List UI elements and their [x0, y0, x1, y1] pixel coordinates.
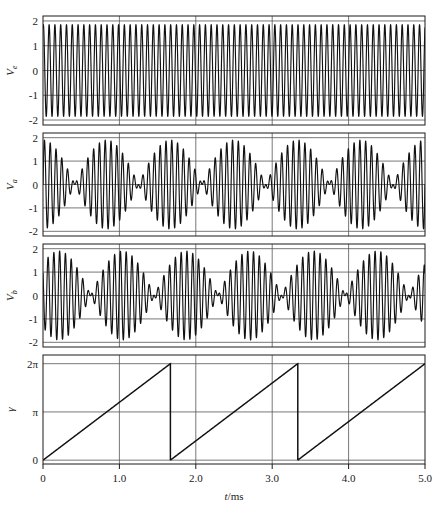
x-axis-title: t/ms: [225, 490, 244, 502]
panel-ve-ytick-label: 1: [33, 40, 39, 52]
panel-vb-ylabel: Vb: [4, 290, 19, 301]
panel-va-ytick-label: 2: [33, 132, 39, 144]
panel-gamma-ytick-label: π: [32, 406, 38, 418]
panel-ve-ytick-label: 0: [33, 65, 39, 77]
panel-va-ytick-labels: 210-1-2: [29, 132, 39, 238]
panel-va-ytick-label: 1: [33, 155, 39, 167]
x-axis: 01.02.03.04.05.0t/ms: [40, 464, 432, 502]
panel-ve: 210-1-2Ve: [4, 15, 425, 126]
waveform-plot-canvas: 210-1-2Ve210-1-2Va210-1-2Vb2ππ0γ01.02.03…: [0, 0, 442, 513]
panel-ve-ylabel: Ve: [4, 65, 19, 76]
x-tick-label: 4.0: [342, 472, 356, 484]
panel-vb-ytick-labels: 210-1-2: [29, 243, 39, 349]
figure-four-panel-waveforms: 210-1-2Ve210-1-2Va210-1-2Vb2ππ0γ01.02.03…: [0, 0, 442, 513]
panel-gamma-ytick-labels: 2ππ0: [27, 358, 39, 466]
panel-va: 210-1-2Va: [4, 132, 425, 238]
panel-ve-ytick-label: -2: [29, 114, 38, 126]
panel-vb-ytick-label: 0: [33, 290, 39, 302]
panel-gamma-ytick-label: 2π: [27, 358, 39, 370]
x-tick-label: 5.0: [418, 472, 432, 484]
x-tick-label: 0: [40, 472, 46, 484]
panel-gamma-ylabel: γ: [4, 407, 16, 412]
panel-vb-ytick-label: -2: [29, 336, 38, 348]
x-tick-label: 1.0: [113, 472, 127, 484]
panel-ve-ytick-label: -1: [29, 89, 38, 101]
panel-vb-ytick-label: 2: [33, 243, 39, 255]
panel-vb-ytick-label: 1: [33, 266, 39, 278]
panel-gamma-background: [43, 355, 425, 464]
panel-va-ytick-label: -2: [29, 225, 38, 237]
panel-ve-ytick-label: 2: [33, 15, 39, 27]
panel-vb-ytick-label: -1: [29, 313, 38, 325]
panel-va-ylabel: Va: [4, 179, 19, 190]
panel-va-ytick-label: 0: [33, 179, 39, 191]
x-tick-label: 2.0: [189, 472, 203, 484]
panel-va-ytick-label: -1: [29, 202, 38, 214]
panel-gamma: 2ππ0γ: [4, 355, 425, 466]
panel-ve-ytick-labels: 210-1-2: [29, 15, 39, 126]
panel-vb: 210-1-2Vb: [4, 243, 425, 349]
panel-gamma-ytick-label: 0: [33, 454, 39, 466]
x-tick-label: 3.0: [265, 472, 279, 484]
